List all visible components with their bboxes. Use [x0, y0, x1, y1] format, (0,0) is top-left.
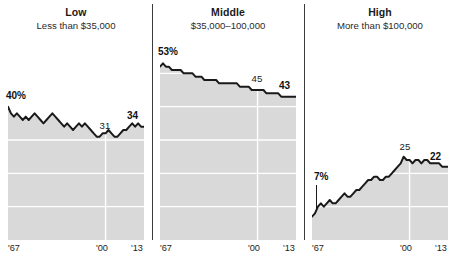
x-axis-tick-label: '13	[435, 243, 447, 253]
x-axis: '67'00'13	[0, 243, 152, 257]
start-value-label: 53%	[158, 46, 178, 57]
panel-divider	[152, 4, 153, 240]
plot-area	[8, 40, 144, 240]
x-axis-tick-label: '67	[160, 243, 172, 253]
end-value-label: 43	[279, 80, 290, 91]
end-value-label: 34	[127, 110, 138, 121]
plot-area	[160, 40, 296, 240]
x-axis-tick-label: '13	[283, 243, 295, 253]
x-axis-tick-label: '67	[8, 243, 20, 253]
panel-subtitle: Less than $35,000	[0, 19, 152, 32]
chart-panel-middle: Middle$35,000–100,00053%4543'67'00'13	[152, 0, 304, 265]
area-fill	[160, 63, 296, 240]
x-axis-tick-label: '00	[248, 243, 260, 253]
x-axis: '67'00'13	[304, 243, 456, 257]
panel-header: Middle$35,000–100,000	[152, 6, 304, 32]
x-axis: '67'00'13	[152, 243, 304, 257]
x-axis-tick-label: '00	[96, 243, 108, 253]
panel-title: High	[304, 6, 456, 19]
mid-value-label: 31	[100, 120, 111, 131]
panel-header: LowLess than $35,000	[0, 6, 152, 32]
end-value-label: 22	[430, 151, 441, 162]
panel-subtitle: More than $100,000	[304, 19, 456, 32]
mid-value-label: 45	[252, 73, 263, 84]
x-axis-tick-label: '67	[312, 243, 324, 253]
panel-title: Middle	[152, 6, 304, 19]
chart-panel-low: LowLess than $35,00040%3134'67'00'13	[0, 0, 152, 265]
x-axis-tick-label: '13	[131, 243, 143, 253]
plot-area	[312, 40, 448, 240]
chart-panel-high: HighMore than $100,0007%2522'67'00'13	[304, 0, 456, 265]
panel-subtitle: $35,000–100,000	[152, 19, 304, 32]
panel-title: Low	[0, 6, 152, 19]
chart-panels: LowLess than $35,00040%3134'67'00'13Midd…	[0, 0, 456, 265]
label-leader-line	[316, 185, 317, 211]
panel-header: HighMore than $100,000	[304, 6, 456, 32]
x-axis-tick-label: '00	[400, 243, 412, 253]
start-value-label: 7%	[314, 171, 328, 182]
area-fill	[312, 157, 448, 240]
mid-value-label: 25	[400, 141, 411, 152]
start-value-label: 40%	[6, 90, 26, 101]
panel-divider	[304, 4, 305, 240]
